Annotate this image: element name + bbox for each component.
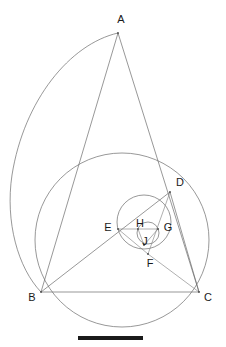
geometry-canvas: A B C D E F G H J [0, 0, 226, 347]
segment-ac [118, 33, 199, 292]
vertex-dot-b [40, 291, 42, 293]
vertex-dot-e [117, 228, 119, 230]
point-label-j: J [142, 235, 148, 247]
point-label-b: B [28, 291, 35, 303]
point-label-f: F [147, 257, 154, 269]
vertex-dot-c [198, 291, 200, 293]
point-label-h: H [136, 217, 144, 229]
large-outer-arc [10, 33, 118, 292]
geometry-figure: A B C D E F G H J [0, 0, 226, 347]
point-label-g: G [164, 221, 173, 233]
vertex-dot-d [169, 191, 171, 193]
segment-fc [148, 254, 199, 292]
point-label-a: A [117, 13, 125, 25]
vertex-dot-g [157, 228, 159, 230]
point-label-d: D [176, 176, 184, 188]
scale-bar [78, 336, 143, 340]
segment-dc [170, 192, 199, 292]
point-label-c: C [204, 291, 212, 303]
vertex-dot-a [117, 32, 119, 34]
segment-bd [41, 192, 170, 292]
segment-ab [41, 33, 118, 292]
point-label-e: E [104, 221, 111, 233]
vertex-dot-f [147, 253, 149, 255]
